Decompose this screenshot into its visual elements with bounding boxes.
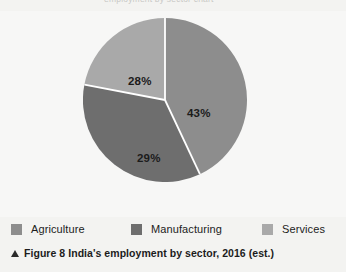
pie-label-agriculture: 43% xyxy=(187,107,211,119)
legend-swatch-agriculture xyxy=(11,224,22,235)
pie-label-manufacturing: 29% xyxy=(137,152,161,164)
figure-caption: Figure 8 India's employment by sector, 2… xyxy=(11,247,274,259)
triangle-up-icon xyxy=(11,250,19,257)
clipped-header-text: employment by sector chart xyxy=(104,0,214,4)
chart-legend: Agriculture Manufacturing Services xyxy=(0,222,346,244)
pie-label-services: 28% xyxy=(128,75,152,87)
chart-plate: 43% 28% 29% xyxy=(0,11,346,217)
legend-swatch-services xyxy=(262,224,273,235)
legend-label-agriculture: Agriculture xyxy=(31,223,85,235)
legend-label-services: Services xyxy=(282,223,325,235)
legend-item-agriculture[interactable]: Agriculture xyxy=(11,223,85,235)
legend-label-manufacturing: Manufacturing xyxy=(151,223,222,235)
pie-chart: 43% 28% 29% xyxy=(83,18,247,182)
legend-item-services[interactable]: Services xyxy=(262,223,325,235)
legend-item-manufacturing[interactable]: Manufacturing xyxy=(131,223,222,235)
figure-container: employment by sector chart 43% 28% 29% xyxy=(0,0,346,272)
legend-swatch-manufacturing xyxy=(131,224,142,235)
pie-chart-svg xyxy=(83,18,247,182)
figure-caption-text: Figure 8 India's employment by sector, 2… xyxy=(24,247,274,259)
